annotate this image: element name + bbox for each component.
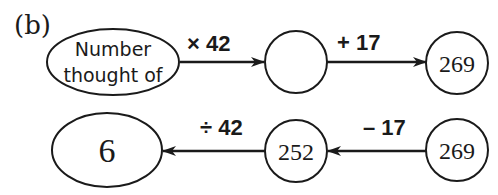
start-label-line1: Number (53, 36, 173, 62)
value-252: 252 (266, 140, 326, 164)
operation-times-42: × 42 (187, 33, 230, 55)
operation-divide-42: ÷ 42 (200, 117, 243, 139)
operation-plus-17: + 17 (337, 32, 380, 54)
start-label: Number thought of (53, 36, 173, 88)
function-machine-diagram: (b) Number thought of × 42 + 17 269 6 ÷ … (0, 0, 498, 195)
diagram-shapes (0, 0, 498, 195)
operation-minus-17: – 17 (363, 117, 406, 139)
value-269-top: 269 (427, 52, 487, 76)
answer-value: 6 (77, 134, 137, 168)
start-label-line2: thought of (53, 62, 173, 88)
blank-circle (265, 31, 327, 93)
part-label: (b) (14, 12, 51, 38)
value-269-bottom: 269 (427, 139, 487, 163)
